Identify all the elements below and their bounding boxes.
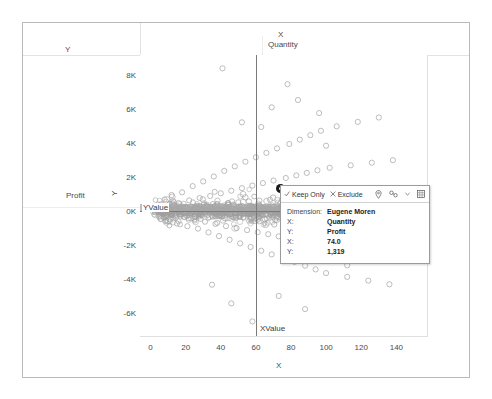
tooltip-toolbar[interactable]: Keep Only Exclude	[281, 186, 429, 203]
data-point[interactable]	[376, 115, 381, 120]
data-point[interactable]	[313, 267, 318, 272]
data-point[interactable]	[315, 168, 320, 173]
data-point[interactable]	[334, 124, 339, 129]
data-point[interactable]	[209, 282, 214, 287]
data-point[interactable]	[201, 179, 206, 184]
data-point[interactable]	[239, 186, 244, 191]
y-tick-label: 4K	[110, 139, 136, 148]
data-point[interactable]	[250, 319, 255, 324]
keep-only-button[interactable]: Keep Only	[284, 191, 325, 198]
data-point[interactable]	[324, 143, 329, 148]
data-point[interactable]	[211, 174, 216, 179]
tooltip-row-key: X:	[287, 237, 327, 247]
data-point[interactable]	[197, 195, 202, 200]
data-point[interactable]	[303, 307, 308, 312]
column-field-name-quantity: Quantity	[268, 40, 298, 49]
data-point[interactable]	[218, 191, 223, 196]
data-point[interactable]	[215, 220, 220, 225]
tooltip-body: Dimension:Eugene MorenX:QuantityY:Profit…	[281, 203, 429, 263]
data-point[interactable]	[327, 165, 332, 170]
group-icon[interactable]	[388, 188, 399, 201]
tooltip-row: Y:1,319	[287, 247, 423, 257]
data-point[interactable]	[229, 301, 234, 306]
pin-icon[interactable]	[373, 188, 384, 201]
data-point[interactable]	[355, 119, 360, 124]
y-tick-label: 2K	[110, 173, 136, 182]
y-tick-label: -4K	[110, 275, 136, 284]
x-tick-label: 100	[319, 343, 332, 352]
data-point[interactable]	[294, 173, 299, 178]
data-point[interactable]	[304, 170, 309, 175]
exclude-label: Exclude	[338, 191, 363, 198]
data-point[interactable]	[269, 105, 274, 110]
view-data-icon[interactable]	[415, 188, 426, 201]
row-shelf-y-label: Y	[65, 45, 70, 54]
data-point[interactable]	[245, 228, 250, 233]
data-point[interactable]	[195, 226, 200, 231]
chevron-down-icon[interactable]	[404, 188, 410, 201]
data-point[interactable]	[232, 164, 237, 169]
data-point[interactable]	[177, 222, 182, 227]
data-point[interactable]	[223, 224, 228, 229]
data-point[interactable]	[348, 163, 353, 168]
data-point[interactable]	[220, 66, 225, 71]
data-point[interactable]	[212, 189, 217, 194]
exclude-button[interactable]: Exclude	[330, 191, 363, 198]
data-point[interactable]	[297, 137, 302, 142]
data-point[interactable]	[324, 271, 329, 276]
x-tick-label: 0	[148, 343, 152, 352]
data-point[interactable]	[222, 168, 227, 173]
data-point[interactable]	[264, 150, 269, 155]
data-point[interactable]	[208, 193, 213, 198]
data-point[interactable]	[271, 178, 276, 183]
data-point[interactable]	[200, 197, 205, 202]
data-point[interactable]	[259, 248, 264, 253]
keep-only-label: Keep Only	[292, 191, 325, 198]
tooltip-row-key: Dimension:	[287, 207, 327, 217]
data-point[interactable]	[274, 146, 279, 151]
data-point[interactable]	[180, 190, 185, 195]
data-point[interactable]	[243, 159, 248, 164]
data-point[interactable]	[387, 282, 392, 287]
tooltip-row: X:74.0	[287, 237, 423, 247]
data-point[interactable]	[206, 230, 211, 235]
data-point[interactable]	[285, 82, 290, 87]
data-point[interactable]	[287, 141, 292, 146]
data-point[interactable]	[264, 198, 270, 204]
tooltip-row-value: Eugene Moren	[327, 207, 375, 217]
x-icon	[330, 191, 336, 197]
data-point[interactable]	[369, 160, 374, 165]
x-tick-label: 140	[390, 343, 403, 352]
data-point[interactable]	[283, 175, 288, 180]
data-point[interactable]	[216, 234, 221, 239]
y-tick-label: -6K	[110, 309, 136, 318]
tooltip-row-value: 74.0	[327, 237, 341, 247]
data-point[interactable]	[295, 97, 300, 102]
data-point[interactable]	[276, 293, 281, 298]
data-point[interactable]	[318, 128, 323, 133]
data-point[interactable]	[239, 120, 244, 125]
data-point[interactable]	[308, 133, 313, 138]
data-point[interactable]	[390, 158, 395, 163]
x-tick-label: 20	[181, 343, 190, 352]
y-tick-label: 0K	[110, 207, 136, 216]
data-point[interactable]	[269, 252, 274, 257]
reference-line-xvalue	[256, 55, 257, 337]
data-point[interactable]	[248, 244, 253, 249]
data-point[interactable]	[215, 198, 220, 203]
data-point[interactable]	[259, 124, 264, 129]
data-point[interactable]	[366, 278, 371, 283]
data-point[interactable]	[229, 188, 234, 193]
data-point[interactable]	[317, 111, 322, 116]
data-point[interactable]	[266, 232, 271, 237]
data-point[interactable]	[238, 241, 243, 246]
data-point[interactable]	[260, 181, 265, 186]
mark-tooltip[interactable]: Keep Only Exclude	[280, 185, 430, 264]
x-tick-label: 60	[251, 343, 260, 352]
data-point[interactable]	[227, 237, 232, 242]
data-point[interactable]	[185, 224, 190, 229]
data-point[interactable]	[247, 187, 252, 192]
tooltip-row: Y:Profit	[287, 227, 423, 237]
data-point[interactable]	[190, 184, 195, 189]
data-point[interactable]	[345, 274, 350, 279]
